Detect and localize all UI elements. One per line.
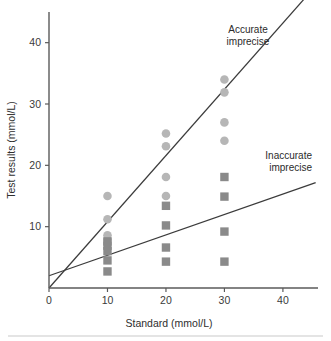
- data-point-square: [162, 202, 170, 210]
- data-point-circle: [162, 129, 171, 138]
- x-tick-label: 40: [277, 294, 289, 306]
- data-point-square: [162, 221, 170, 229]
- scatter-plot-figure: 010203040 10203040 Standard (mmol/L) Tes…: [0, 0, 331, 341]
- data-point-circle: [162, 142, 171, 151]
- inaccurate-imprecise-label-line1: Inaccurate: [265, 150, 312, 161]
- data-point-square: [103, 267, 111, 275]
- data-point-circle: [220, 75, 229, 84]
- y-tick-label: 40: [29, 36, 41, 48]
- x-tick-label: 20: [160, 294, 172, 306]
- y-axis-title: Test results (mmol/L): [5, 101, 17, 198]
- accurate-imprecise-label-line2: imprecise: [227, 36, 270, 47]
- x-axis-title: Standard (mmol/L): [126, 317, 213, 329]
- data-point-square: [220, 257, 228, 265]
- accurate-imprecise-label-line1: Accurate: [228, 24, 268, 35]
- data-point-square: [162, 243, 170, 251]
- x-axis-ticks-group: 010203040: [46, 288, 289, 306]
- data-point-circle: [220, 118, 229, 127]
- data-point-circle: [103, 192, 112, 201]
- x-tick-label: 10: [102, 294, 114, 306]
- inaccurate-imprecise-label-line2: imprecise: [269, 162, 312, 173]
- data-point-circle: [162, 173, 171, 182]
- data-point-square: [220, 227, 228, 235]
- y-tick-label: 20: [29, 159, 41, 171]
- data-point-square: [103, 256, 111, 264]
- data-point-circle: [220, 137, 229, 146]
- data-point-square: [103, 247, 111, 255]
- y-tick-label: 10: [29, 220, 41, 232]
- data-point-circle: [220, 88, 229, 97]
- inaccurate-imprecise-line: [49, 183, 316, 276]
- x-tick-label: 30: [219, 294, 231, 306]
- accurate-imprecise-line: [49, 0, 316, 288]
- y-axis-ticks-group: 10203040: [29, 36, 49, 232]
- data-point-circle: [103, 215, 112, 224]
- y-tick-label: 30: [29, 98, 41, 110]
- data-point-square: [162, 257, 170, 265]
- x-tick-label: 0: [46, 294, 52, 306]
- plot-canvas: 010203040 10203040 Standard (mmol/L) Tes…: [0, 0, 331, 341]
- data-point-square: [220, 173, 228, 181]
- annotations-group: AccurateimpreciseInaccurateimprecise: [227, 24, 313, 173]
- data-point-circle: [162, 192, 171, 201]
- data-point-square: [220, 192, 228, 200]
- trend-lines-group: [49, 0, 316, 288]
